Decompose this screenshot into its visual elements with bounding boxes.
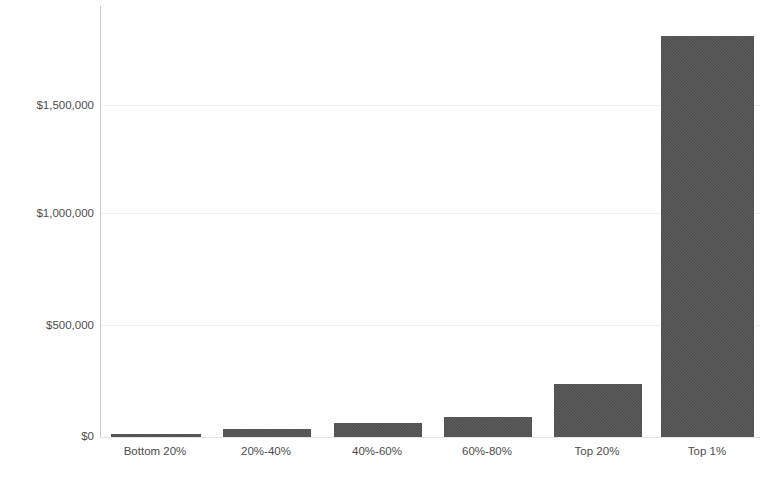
x-axis-tick-label-bottom-20: Bottom 20%: [100, 443, 210, 459]
y-axis-tick-labels: $1,500,000 $1,000,000 $500,000 $0: [0, 0, 94, 502]
x-axis-tick-label-top-20: Top 20%: [542, 443, 652, 459]
plot-area: [100, 6, 760, 438]
y-axis-tick-label: $500,000: [2, 319, 94, 331]
bar-chart: $1,500,000 $1,000,000 $500,000 $0 Bottom…: [0, 0, 768, 502]
bar-top-20: [554, 384, 642, 438]
bar-top-1: [661, 36, 754, 438]
x-axis-tick-labels: Bottom 20% 20%-40% 40%-60% 60%-80% Top 2…: [100, 443, 760, 467]
x-axis-tick-label-40-60: 40%-60%: [322, 443, 432, 459]
x-axis-tick-label-60-80: 60%-80%: [432, 443, 542, 459]
x-axis-tick-label-20-40: 20%-40%: [211, 443, 321, 459]
x-axis-tick-label-top-1: Top 1%: [652, 443, 762, 459]
bar-60-80: [444, 417, 532, 438]
x-axis-baseline: [100, 437, 760, 438]
bar-40-60: [334, 423, 422, 438]
y-axis-tick-label: $0: [2, 430, 94, 442]
y-axis-tick-label: $1,500,000: [2, 99, 94, 111]
y-axis-tick-label: $1,000,000: [2, 207, 94, 219]
